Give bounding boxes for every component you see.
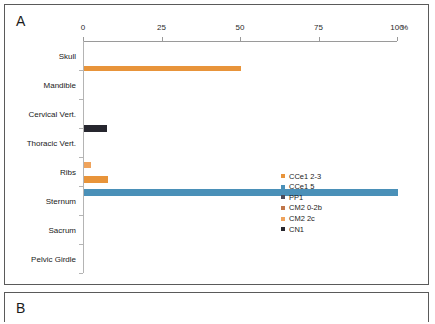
y-category-label-cervical-vert: Cervical Vert.: [28, 109, 76, 118]
figure-panel-b: B: [4, 292, 429, 322]
x-tick-label-0: 0: [81, 23, 85, 32]
legend-label: PP1: [289, 194, 303, 202]
legend-label: CCe1 2-3: [289, 173, 321, 181]
bar-ribs-cm2-2c: [84, 162, 91, 168]
legend-swatch-icon: [281, 174, 285, 178]
y-tick-4: [79, 186, 83, 187]
legend-item-cce1-5: CCe1 5: [281, 182, 381, 193]
x-tick-100: [397, 37, 398, 41]
y-category-label-thoracic-vert: Thoracic Vert.: [27, 138, 76, 147]
y-category-label-sacrum: Sacrum: [48, 225, 76, 234]
x-tick-label-50: 50: [236, 23, 245, 32]
y-tick-0: [79, 70, 83, 71]
legend-item-pp1: PP1: [281, 192, 381, 203]
x-tick-75: [319, 37, 320, 41]
bar-chart-plot-area: 0255075100 % SkullMandibleCervical Vert.…: [83, 41, 397, 273]
y-category-label-ribs: Ribs: [60, 167, 76, 176]
y-tick-2: [79, 128, 83, 129]
legend-swatch-icon: [281, 206, 285, 210]
chart-legend: CCe1 2-3CCe1 5PP1CM2 0-2bCM2 2cCN1: [281, 171, 381, 235]
legend-label: CCe1 5: [289, 183, 314, 191]
x-axis-line: [83, 41, 397, 42]
y-tick-5: [79, 215, 83, 216]
x-tick-25: [162, 37, 163, 41]
panel-a-label: A: [16, 13, 26, 29]
legend-swatch-icon: [281, 195, 285, 199]
legend-swatch-icon: [281, 227, 285, 231]
x-tick-0: [83, 37, 84, 41]
y-category-label-sternum: Sternum: [46, 196, 76, 205]
legend-swatch-icon: [281, 217, 285, 221]
x-axis-unit-label: %: [401, 23, 408, 32]
y-tick-6: [79, 244, 83, 245]
legend-item-cce1-2-3: CCe1 2-3: [281, 171, 381, 182]
x-tick-label-25: 25: [157, 23, 166, 32]
legend-label: CM2 2c: [289, 215, 315, 223]
y-tick-1: [79, 99, 83, 100]
y-axis-line: [83, 41, 84, 273]
legend-item-cm2-0-2b: CM2 0-2b: [281, 203, 381, 214]
figure-panel-a: A 0255075100 % SkullMandibleCervical Ver…: [4, 4, 429, 285]
y-category-label-mandible: Mandible: [44, 80, 76, 89]
y-tick-7: [79, 273, 83, 274]
x-tick-label-75: 75: [314, 23, 323, 32]
x-tick-50: [240, 37, 241, 41]
panel-b-label: B: [16, 300, 26, 316]
bar-ribs-cce1-2-3: [84, 176, 108, 183]
y-category-label-pelvic-girdle: Pelvic Girdle: [31, 254, 76, 263]
legend-swatch-icon: [281, 185, 285, 189]
legend-item-cn1: CN1: [281, 224, 381, 235]
legend-label: CM2 0-2b: [289, 204, 322, 212]
legend-item-cm2-2c: CM2 2c: [281, 213, 381, 224]
legend-label: CN1: [289, 226, 304, 234]
bar-mandible-cm2-2c: [84, 66, 241, 72]
y-category-label-skull: Skull: [59, 51, 76, 60]
y-tick-3: [79, 157, 83, 158]
bar-thoracic-vert-cn1: [84, 125, 107, 132]
